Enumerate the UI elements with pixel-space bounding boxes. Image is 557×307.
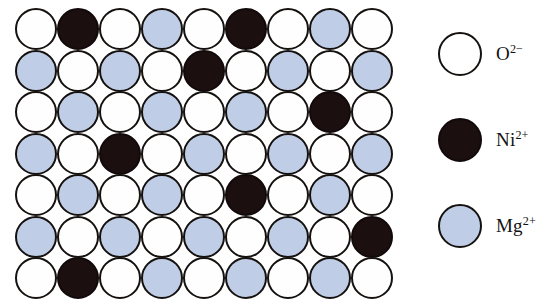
legend-symbol-magnesium: Mg	[496, 215, 523, 236]
lattice-ion-magnesium	[225, 91, 267, 133]
lattice-ion-oxide	[225, 50, 267, 92]
lattice-ion-magnesium	[15, 50, 57, 92]
lattice-ion-nickel	[183, 50, 225, 92]
lattice-ion-magnesium	[141, 91, 183, 133]
lattice-ion-oxide	[183, 8, 225, 50]
lattice-row	[0, 257, 420, 301]
lattice-ion-oxide	[183, 91, 225, 133]
lattice-ion-magnesium	[309, 174, 351, 216]
lattice-ion-nickel	[309, 91, 351, 133]
lattice-ion-magnesium	[57, 91, 99, 133]
lattice-row	[0, 50, 420, 94]
lattice-ion-oxide	[99, 91, 141, 133]
lattice-ion-nickel	[225, 8, 267, 50]
lattice-ion-nickel	[57, 8, 99, 50]
lattice-ion-magnesium	[309, 8, 351, 50]
lattice-row	[0, 8, 420, 52]
lattice-ion-oxide	[267, 91, 309, 133]
lattice-ion-oxide	[57, 216, 99, 258]
lattice-ion-oxide	[351, 91, 393, 133]
lattice-ion-nickel	[225, 174, 267, 216]
lattice-ion-magnesium	[267, 133, 309, 175]
lattice-ion-oxide	[351, 257, 393, 299]
legend-item-oxide: O2−	[430, 26, 523, 82]
legend-label-nickel: Ni2+	[496, 129, 528, 151]
lattice-row	[0, 91, 420, 135]
lattice-ion-oxide	[15, 8, 57, 50]
lattice-ion-magnesium	[351, 50, 393, 92]
lattice-ion-oxide	[309, 216, 351, 258]
lattice-ion-oxide	[309, 133, 351, 175]
lattice-ion-oxide	[99, 174, 141, 216]
lattice-ion-oxide	[57, 50, 99, 92]
lattice-row	[0, 174, 420, 218]
lattice-ion-oxide	[183, 174, 225, 216]
lattice-ion-oxide	[141, 216, 183, 258]
legend-item-nickel: Ni2+	[430, 112, 528, 168]
lattice-row	[0, 216, 420, 260]
lattice-ion-magnesium	[351, 133, 393, 175]
lattice-ion-oxide	[57, 133, 99, 175]
legend-charge-magnesium: 2+	[523, 214, 536, 228]
lattice-ion-nickel	[99, 133, 141, 175]
lattice-ion-magnesium	[15, 216, 57, 258]
lattice-ion-magnesium	[309, 257, 351, 299]
legend-label-magnesium: Mg2+	[496, 215, 536, 237]
crystal-lattice-figure: O2− Ni2+ Mg2+	[0, 0, 557, 307]
lattice-ion-magnesium	[183, 133, 225, 175]
lattice-ion-oxide	[309, 50, 351, 92]
legend-label-oxide: O2−	[496, 43, 523, 65]
lattice-ion-oxide	[15, 91, 57, 133]
lattice-ion-oxide	[351, 174, 393, 216]
lattice-ion-oxide	[225, 216, 267, 258]
lattice-ion-magnesium	[99, 50, 141, 92]
lattice-ion-oxide	[141, 50, 183, 92]
legend-charge-nickel: 2+	[515, 128, 528, 142]
lattice-ion-oxide	[267, 257, 309, 299]
lattice-ion-oxide	[267, 174, 309, 216]
lattice-ion-magnesium	[225, 257, 267, 299]
lattice-ion-magnesium	[267, 216, 309, 258]
lattice-ion-magnesium	[267, 50, 309, 92]
lattice-ion-nickel	[57, 257, 99, 299]
legend: O2− Ni2+ Mg2+	[430, 0, 557, 307]
legend-symbol-nickel: Ni	[496, 129, 515, 150]
lattice-grid	[0, 0, 420, 307]
legend-swatch-magnesium-icon	[438, 204, 482, 248]
legend-symbol-oxide: O	[496, 43, 510, 64]
lattice-row	[0, 133, 420, 177]
lattice-ion-oxide	[15, 174, 57, 216]
lattice-ion-oxide	[141, 133, 183, 175]
lattice-ion-oxide	[99, 257, 141, 299]
legend-item-magnesium: Mg2+	[430, 198, 536, 254]
lattice-ion-nickel	[351, 216, 393, 258]
lattice-ion-oxide	[267, 8, 309, 50]
lattice-ion-magnesium	[99, 216, 141, 258]
lattice-ion-oxide	[225, 133, 267, 175]
lattice-ion-oxide	[183, 257, 225, 299]
lattice-ion-magnesium	[141, 257, 183, 299]
lattice-ion-magnesium	[57, 174, 99, 216]
legend-swatch-nickel-icon	[438, 118, 482, 162]
lattice-ion-oxide	[351, 8, 393, 50]
lattice-ion-magnesium	[183, 216, 225, 258]
lattice-ion-oxide	[15, 257, 57, 299]
legend-charge-oxide: 2−	[510, 42, 523, 56]
lattice-ion-oxide	[99, 8, 141, 50]
lattice-ion-magnesium	[141, 174, 183, 216]
lattice-ion-magnesium	[141, 8, 183, 50]
legend-swatch-oxide-icon	[438, 32, 482, 76]
lattice-ion-magnesium	[15, 133, 57, 175]
